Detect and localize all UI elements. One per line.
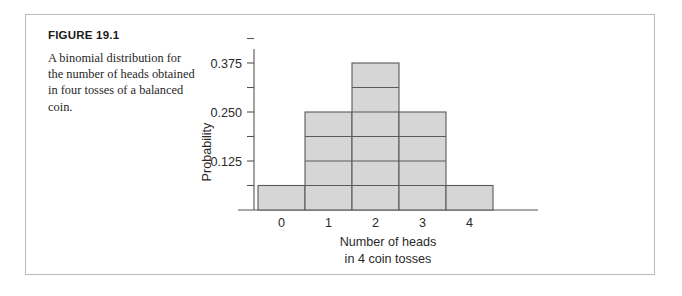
histogram-bar <box>258 186 305 211</box>
x-axis-title-line-1: Number of heads <box>340 235 437 249</box>
x-axis-tick-label: 1 <box>325 216 332 230</box>
histogram-bars <box>258 63 493 210</box>
binomial-distribution-histogram: Probability 0.1250.2500.375 01234 Number… <box>26 15 656 276</box>
y-axis-major-ticks: 0.1250.2500.375 <box>210 57 254 169</box>
histogram-bar <box>446 186 493 211</box>
x-axis-tick-label: 0 <box>278 216 285 230</box>
chart-plot-region: Probability 0.1250.2500.375 01234 Number… <box>26 15 656 276</box>
x-axis-tick-labels: 01234 <box>278 216 473 230</box>
figure-frame: FIGURE 19.1 A binomial distribution for … <box>25 14 655 275</box>
x-axis-tick-label: 2 <box>372 216 379 230</box>
y-axis-title: Probability <box>200 122 214 182</box>
x-axis-tick-label: 3 <box>419 216 426 230</box>
y-axis-tick-label: 0.250 <box>210 106 242 120</box>
y-axis-tick-label: 0.375 <box>210 57 242 71</box>
x-axis-title-line-2: in 4 coin tosses <box>345 252 432 266</box>
y-axis-tick-label: 0.125 <box>210 155 242 169</box>
x-axis-tick-label: 4 <box>466 216 473 230</box>
